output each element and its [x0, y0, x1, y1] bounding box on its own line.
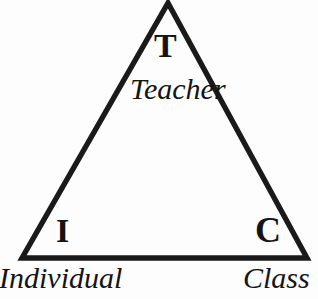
- vertex-word-teacher: Teacher: [130, 74, 226, 104]
- vertex-letter-class: C: [255, 212, 281, 248]
- triangle-diagram: T Teacher I Individual C Class: [0, 0, 318, 299]
- vertex-word-individual: Individual: [0, 263, 122, 293]
- vertex-letter-individual: I: [56, 214, 69, 248]
- vertex-word-class: Class: [243, 263, 310, 293]
- vertex-letter-teacher: T: [154, 29, 177, 63]
